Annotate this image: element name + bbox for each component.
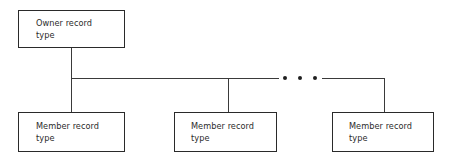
bus-line-left-segment <box>71 78 279 79</box>
owner-record-type-box[interactable]: Owner record type <box>18 10 125 48</box>
member-2-stem-connector <box>228 78 229 112</box>
member-record-type-box-3[interactable]: Member record type <box>332 112 434 152</box>
ellipsis-group <box>282 74 320 83</box>
member-record-type-label-3: Member record type <box>349 121 435 144</box>
ellipsis-dot-icon <box>298 76 302 80</box>
diagram-canvas: Owner record type Member record type Mem… <box>0 0 453 159</box>
owner-record-type-label: Owner record type <box>36 18 122 41</box>
member-record-type-label-1: Member record type <box>36 121 122 144</box>
member-1-stem-connector <box>71 78 72 112</box>
ellipsis-dot-icon <box>313 76 317 80</box>
bus-line-right-segment <box>322 78 384 79</box>
ellipsis-dot-icon <box>283 76 287 80</box>
owner-stem-connector <box>71 48 72 78</box>
member-record-type-box-1[interactable]: Member record type <box>18 112 125 152</box>
member-record-type-box-2[interactable]: Member record type <box>174 112 277 152</box>
member-record-type-label-2: Member record type <box>191 121 277 144</box>
member-3-stem-connector <box>384 78 385 112</box>
